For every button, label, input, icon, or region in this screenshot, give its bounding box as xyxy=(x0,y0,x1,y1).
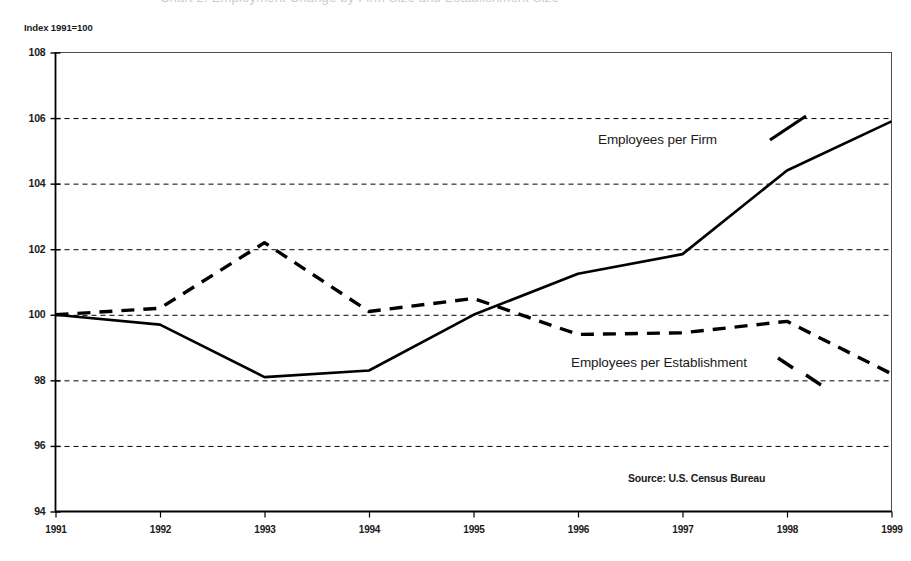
series-label-employees-per-establishment: Employees per Establishment xyxy=(571,355,747,370)
y-tick-label: 96 xyxy=(16,439,46,451)
x-tick-label: 1996 xyxy=(549,524,609,535)
y-tick-label: 98 xyxy=(16,374,46,386)
x-tick-label: 1997 xyxy=(653,524,713,535)
chart-plot xyxy=(0,0,911,561)
series-label-employees-per-firm: Employees per Firm xyxy=(598,132,717,147)
y-tick-label: 100 xyxy=(16,308,46,320)
x-tick-label: 1993 xyxy=(235,524,295,535)
x-tick-label: 1994 xyxy=(340,524,400,535)
x-tick-label: 1991 xyxy=(26,524,86,535)
x-tick-label: 1999 xyxy=(862,524,911,535)
y-tick-label: 108 xyxy=(16,46,46,58)
source-note: Source: U.S. Census Bureau xyxy=(628,472,765,484)
x-tick-label: 1998 xyxy=(758,524,818,535)
y-tick-label: 94 xyxy=(16,505,46,517)
y-tick-label: 106 xyxy=(16,112,46,124)
plot-frame xyxy=(56,53,892,512)
chart-figure: Chart 2. Employment Change by Firm Size … xyxy=(0,0,911,561)
x-tick-label: 1992 xyxy=(131,524,191,535)
y-tick-label: 104 xyxy=(16,177,46,189)
y-tick-label: 102 xyxy=(16,243,46,255)
x-tick-label: 1995 xyxy=(444,524,504,535)
